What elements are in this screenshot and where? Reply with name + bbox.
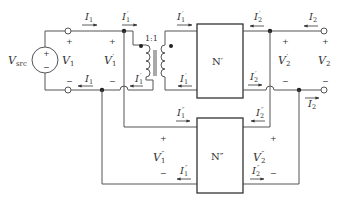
svg-text:−: − [43,63,50,72]
svg-text:+: + [282,37,289,46]
svg-text:I2″: I2″ [251,164,260,178]
svg-text:I1: I1 [84,11,93,24]
svg-text:I2″: I2″ [255,106,264,120]
current-i1-double-prime-bottom: I1″ [177,164,191,179]
svg-text:I1″: I1″ [176,106,185,120]
voltage-source: + − [32,31,58,90]
current-i2-double-prime-top: I2″ [251,106,265,121]
svg-text:−: − [66,77,73,86]
terminal-2-top [321,28,327,34]
current-i2-prime-bottom: I2′ [248,70,262,85]
current-i2-bottom: I2 [305,98,319,111]
svg-text:−: − [160,169,167,178]
svg-text:+: + [109,37,116,46]
svg-text:+: + [322,37,329,46]
svg-text:I2: I2 [307,98,316,111]
circuit-diagram: + − 1:1 N′ N″ Vsrc V1 + − V1′ + − V2′ + [0,0,344,206]
svg-text:I2′: I2′ [253,10,262,24]
svg-text:I1′: I1′ [179,72,188,86]
v1-label: V1 [62,54,74,68]
svg-text:+: + [270,134,277,143]
transformer-ratio: 1:1 [145,34,158,43]
current-i2-top: I2 [304,11,318,26]
transformer: 1:1 [133,34,173,80]
terminal-1-bottom [65,87,71,93]
svg-text:I1′: I1′ [176,10,185,24]
current-i1-prime-left-top: I1′ [121,10,137,25]
network-n-prime-label: N′ [212,56,224,67]
svg-text:−: − [270,169,277,178]
current-i2-prime-top: I2′ [250,10,264,26]
current-i1-prime-right-top: I1′ [176,10,192,25]
svg-text:−: − [109,77,116,86]
current-i1-double-prime-top: I1″ [176,106,190,121]
current-i1-bottom: I1 [78,73,93,86]
svg-text:I1: I1 [84,73,93,86]
svg-text:+: + [43,49,50,58]
svg-text:I2′: I2′ [249,70,258,84]
v1-double-prime-label: V1″ [153,150,165,165]
current-i1-prime-left-bottom: I1′ [130,72,143,86]
current-i2-double-prime-bottom: I2″ [250,164,264,179]
v2-double-prime-label: V2″ [253,150,265,165]
svg-text:I1′: I1′ [121,10,130,24]
svg-text:I1′: I1′ [134,72,143,86]
v2-prime-label: V2′ [278,53,290,68]
current-i1-prime-right-bottom: I1′ [178,72,192,86]
terminal-1-top [65,28,71,34]
terminal-2-bottom [321,87,327,93]
v-src-label: Vsrc [8,54,27,68]
wire-bottom-right [243,86,321,90]
network-n-double-prime-label: N″ [211,151,224,162]
v1-prime-label: V1′ [104,53,116,68]
svg-text:+: + [160,134,167,143]
svg-text:−: − [322,77,329,86]
svg-text:−: − [282,77,289,86]
svg-text:I2: I2 [308,11,317,24]
current-i1-top: I1 [82,11,97,25]
svg-text:+: + [66,37,73,46]
v2-label: V2 [318,54,330,68]
wire-top-left [45,31,133,41]
svg-text:I1″: I1″ [179,164,188,178]
